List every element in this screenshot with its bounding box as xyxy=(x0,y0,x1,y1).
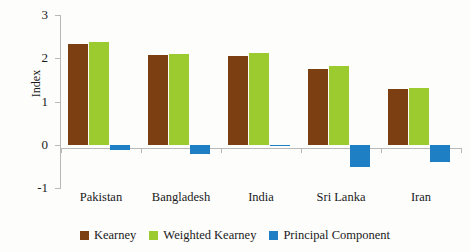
legend-item-kearney[interactable]: Kearney xyxy=(80,228,136,243)
x-axis-label-pakistan: Pakistan xyxy=(61,190,141,205)
legend-label: Weighted Kearney xyxy=(163,228,256,243)
legend-label: Principal Component xyxy=(283,228,390,243)
x-tick-mark xyxy=(461,148,462,153)
y-tick-label: 1 xyxy=(0,95,48,108)
legend-swatch-icon xyxy=(80,231,89,240)
bar-kearney-india xyxy=(228,56,248,145)
legend-item-weighted-kearney[interactable]: Weighted Kearney xyxy=(149,228,256,243)
chart-figure: Index 3210-1 PakistanBangladeshIndiaSri … xyxy=(0,0,470,252)
y-tick-label: -1 xyxy=(0,181,48,194)
bar-principal-component-pakistan xyxy=(110,145,130,150)
bar-principal-component-bangladesh xyxy=(190,145,210,154)
x-axis-label-sri-lanka: Sri Lanka xyxy=(301,190,381,205)
bar-principal-component-india xyxy=(270,145,290,147)
legend-label: Kearney xyxy=(94,228,136,243)
y-tick-label: 0 xyxy=(0,138,48,151)
x-axis-label-bangladesh: Bangladesh xyxy=(141,190,221,205)
bar-weighted-kearney-pakistan xyxy=(89,42,109,145)
y-tick-label: 3 xyxy=(0,8,48,21)
legend-item-principal-component[interactable]: Principal Component xyxy=(269,228,390,243)
bar-kearney-pakistan xyxy=(68,44,88,145)
bar-kearney-sri-lanka xyxy=(308,69,328,145)
x-axis-label-iran: Iran xyxy=(381,190,461,205)
bar-weighted-kearney-india xyxy=(249,53,269,145)
bar-weighted-kearney-iran xyxy=(409,88,429,145)
bar-weighted-kearney-sri-lanka xyxy=(329,66,349,145)
x-axis-label-india: India xyxy=(221,190,301,205)
chart-legend: KearneyWeighted KearneyPrincipal Compone… xyxy=(0,228,470,243)
bar-principal-component-sri-lanka xyxy=(350,145,370,167)
y-tick-label: 2 xyxy=(0,51,48,64)
bar-kearney-iran xyxy=(388,89,408,145)
y-tick-mark xyxy=(55,188,61,189)
legend-swatch-icon xyxy=(269,231,278,240)
bar-principal-component-iran xyxy=(430,145,450,162)
bar-kearney-bangladesh xyxy=(148,55,168,145)
legend-swatch-icon xyxy=(149,231,158,240)
plot-area xyxy=(61,15,461,188)
bar-weighted-kearney-bangladesh xyxy=(169,54,189,144)
